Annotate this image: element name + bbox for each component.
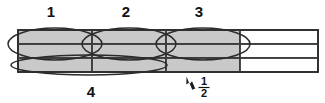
grid-cell-r1c2	[166, 44, 240, 58]
fraction-numerator: 1	[201, 75, 207, 87]
up-left-arrow-icon	[186, 77, 195, 90]
grid-cell-r2c3	[240, 58, 318, 72]
fraction-one-half: 1 2	[199, 75, 210, 99]
grid-cell-r1c3	[240, 44, 318, 58]
grid-cell-r0c1	[92, 30, 166, 44]
empty-cells-group	[240, 30, 318, 72]
group-label-2: 2	[122, 3, 130, 20]
grid-cell-r0c3	[240, 30, 318, 44]
figure-container: 1 2 3 4 1 2	[0, 0, 325, 103]
bar-model-diagram: 1 2 3 4 1 2	[0, 0, 325, 103]
group-label-3: 3	[195, 3, 203, 20]
shaded-cells-group	[18, 30, 240, 72]
grid-cell-r0c0	[18, 30, 92, 44]
grid-cell-r0c2	[166, 30, 240, 44]
fraction-denominator: 2	[201, 87, 207, 99]
group-label-4: 4	[87, 83, 96, 100]
group-label-1: 1	[47, 3, 55, 20]
